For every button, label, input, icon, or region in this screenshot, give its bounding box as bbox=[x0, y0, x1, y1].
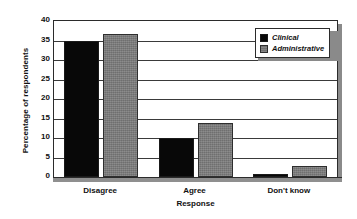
legend-item: Clinical bbox=[260, 32, 324, 43]
y-axis-tick-label: 40 bbox=[24, 16, 50, 24]
x-axis-tick-labels: DisagreeAgreeDon't know bbox=[53, 186, 338, 198]
black-square-icon bbox=[260, 34, 268, 42]
y-axis-tick-label: 35 bbox=[24, 36, 50, 44]
bar-agree-clinical bbox=[159, 138, 194, 177]
y-axis-tick-label: 15 bbox=[24, 114, 50, 122]
bar-chart: Percentage of respondents 05101520253035… bbox=[0, 0, 357, 219]
chart-floor bbox=[53, 177, 342, 182]
legend-item-label: Administrative bbox=[272, 44, 324, 53]
bar-agree-administrative bbox=[198, 123, 233, 177]
gray-square-icon bbox=[260, 45, 268, 53]
y-axis-tick-label: 10 bbox=[24, 133, 50, 141]
bar-don-t-know-administrative bbox=[292, 166, 327, 177]
y-axis-tick-label: 25 bbox=[24, 75, 50, 83]
x-axis-title: Response bbox=[53, 199, 338, 208]
bar-disagree-clinical bbox=[64, 41, 99, 178]
y-axis-tick-label: 0 bbox=[24, 172, 50, 180]
chart-legend: ClinicalAdministrative bbox=[255, 28, 330, 58]
y-axis-tick-label: 5 bbox=[24, 153, 50, 161]
legend-item: Administrative bbox=[260, 43, 324, 54]
x-axis-tick-label: Don't know bbox=[242, 186, 336, 195]
bar-don-t-know-clinical bbox=[253, 174, 288, 177]
y-axis-tick-label: 30 bbox=[24, 55, 50, 63]
y-axis-tick-label: 20 bbox=[24, 94, 50, 102]
x-axis-tick-label: Agree bbox=[147, 186, 241, 195]
x-axis-tick-label: Disagree bbox=[53, 186, 147, 195]
bar-disagree-administrative bbox=[103, 34, 138, 177]
y-axis-tick-labels: 0510152025303540 bbox=[24, 15, 50, 182]
legend-item-label: Clinical bbox=[272, 33, 299, 42]
